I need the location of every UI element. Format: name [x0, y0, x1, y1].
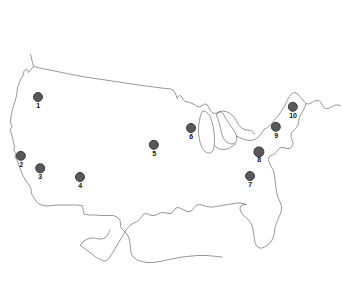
marker-label: 4	[78, 182, 82, 190]
marker-label: 6	[189, 133, 193, 141]
map-marker-3[interactable]: 3	[35, 163, 45, 173]
map-marker-10[interactable]: 10	[288, 102, 298, 112]
marker-label: 9	[274, 132, 278, 140]
marker-label: 7	[248, 181, 252, 189]
map-marker-7[interactable]: 7	[245, 171, 255, 181]
marker-label: 1	[36, 102, 40, 110]
map-marker-9[interactable]: 9	[271, 122, 281, 132]
marker-layer: 1 2 3 4 5 6 7 8	[0, 0, 342, 283]
marker-label: 3	[38, 173, 42, 181]
marker-dot	[288, 102, 298, 112]
marker-dot	[186, 123, 196, 133]
marker-dot	[245, 171, 255, 181]
map-marker-8[interactable]: 8	[253, 146, 264, 157]
map-marker-2[interactable]: 2	[16, 151, 26, 161]
map-marker-4[interactable]: 4	[75, 172, 85, 182]
map-marker-1[interactable]: 1	[33, 92, 43, 102]
marker-label: 2	[19, 161, 23, 169]
marker-dot	[35, 163, 45, 173]
marker-label: 5	[152, 150, 156, 158]
marker-label: 10	[289, 112, 296, 120]
marker-dot	[149, 140, 159, 150]
marker-dot	[33, 92, 43, 102]
marker-dot	[271, 122, 281, 132]
marker-label: 8	[257, 156, 261, 164]
marker-dot	[75, 172, 85, 182]
marker-dot	[16, 151, 26, 161]
us-map-figure: 1 2 3 4 5 6 7 8	[0, 0, 342, 283]
map-marker-6[interactable]: 6	[186, 123, 196, 133]
map-marker-5[interactable]: 5	[149, 140, 159, 150]
